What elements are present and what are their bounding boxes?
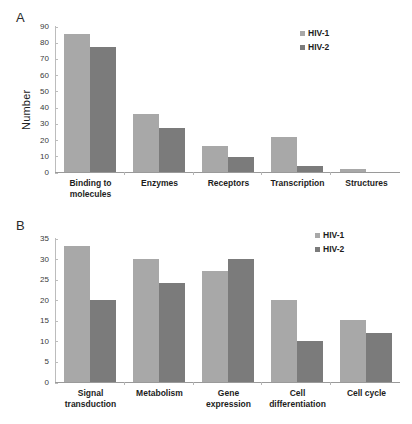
x-axis-line-b xyxy=(55,382,400,383)
y-tick-label: 5 xyxy=(45,358,55,366)
legend-swatch-icon xyxy=(300,31,305,36)
category-label: Metabolism xyxy=(125,388,194,409)
bar-hiv-1 xyxy=(64,246,90,382)
chart-panel-b: B Number 05101520253035 Signal transduct… xyxy=(0,212,412,424)
bar-hiv-1 xyxy=(133,114,159,172)
panel-b-letter: B xyxy=(16,218,25,233)
y-tick-label: 25 xyxy=(40,276,55,284)
y-tick-label: 15 xyxy=(40,317,55,325)
legend-item: HIV-1 xyxy=(315,230,344,240)
y-tick-label: 80 xyxy=(40,39,55,47)
legend-label: HIV-2 xyxy=(323,244,344,254)
x-tick-mark xyxy=(124,172,125,175)
bar-hiv-1 xyxy=(202,146,228,172)
bar-hiv-1 xyxy=(202,271,228,382)
legend-item: HIV-2 xyxy=(315,244,344,254)
x-axis-category-labels-a: Binding to moleculesEnzymesReceptorsTran… xyxy=(56,178,401,199)
x-tick-mark xyxy=(330,172,331,175)
category-label: Gene expression xyxy=(194,388,263,409)
category-label: Transcription xyxy=(263,178,332,199)
legend-swatch-icon xyxy=(300,45,305,50)
y-tick-label: 50 xyxy=(40,88,55,96)
bar-group xyxy=(125,238,194,382)
figure-hiv-interaction-categories: A Number 0102030405060708090 Binding to … xyxy=(0,0,412,424)
chart-panel-a: A Number 0102030405060708090 Binding to … xyxy=(0,0,412,212)
legend-a: HIV-1HIV-2 xyxy=(300,28,329,56)
y-tick-label: 30 xyxy=(40,256,55,264)
plot-area-a: 0102030405060708090 xyxy=(55,26,400,173)
legend-b: HIV-1HIV-2 xyxy=(315,230,344,258)
category-label: Cell differentiation xyxy=(263,388,332,409)
bar-hiv-1 xyxy=(64,34,90,172)
bar-group xyxy=(262,238,331,382)
bar-groups-b xyxy=(56,238,400,382)
x-tick-mark xyxy=(193,172,194,175)
y-tick-label: 10 xyxy=(40,153,55,161)
category-label: Binding to molecules xyxy=(56,178,125,199)
y-tick-label: 60 xyxy=(40,72,55,80)
bar-hiv-2 xyxy=(228,157,254,172)
bar-hiv-2 xyxy=(297,166,323,172)
bar-hiv-1 xyxy=(340,169,366,172)
bar-hiv-1 xyxy=(340,320,366,382)
category-label: Enzymes xyxy=(125,178,194,199)
y-tick-label: 90 xyxy=(40,23,55,31)
category-label: Receptors xyxy=(194,178,263,199)
category-label: Signal transduction xyxy=(56,388,125,409)
panel-a-letter: A xyxy=(16,10,25,25)
x-axis-category-labels-b: Signal transductionMetabolismGene expres… xyxy=(56,388,401,409)
y-tick-mark xyxy=(55,173,58,174)
y-tick-label: 30 xyxy=(40,120,55,128)
legend-label: HIV-2 xyxy=(308,42,329,52)
bar-hiv-2 xyxy=(90,300,116,382)
y-tick-mark xyxy=(55,383,58,384)
bar-hiv-2 xyxy=(159,128,185,172)
y-axis-title-a: Number xyxy=(20,90,32,130)
bar-group xyxy=(194,26,263,172)
bar-hiv-1 xyxy=(271,137,297,172)
bar-group xyxy=(331,238,400,382)
y-tick-label: 20 xyxy=(40,297,55,305)
bar-group xyxy=(194,238,263,382)
y-tick-label: 0 xyxy=(45,169,55,177)
y-tick-label: 40 xyxy=(40,104,55,112)
legend-swatch-icon xyxy=(315,233,320,238)
x-tick-mark xyxy=(124,382,125,385)
plot-area-b: 05101520253035 xyxy=(55,238,400,383)
x-tick-mark xyxy=(261,172,262,175)
legend-label: HIV-1 xyxy=(308,28,329,38)
legend-swatch-icon xyxy=(315,247,320,252)
category-label: Structures xyxy=(332,178,401,199)
x-tick-mark xyxy=(261,382,262,385)
y-tick-label: 70 xyxy=(40,55,55,63)
legend-label: HIV-1 xyxy=(323,230,344,240)
legend-item: HIV-1 xyxy=(300,28,329,38)
bar-group xyxy=(125,26,194,172)
y-tick-label: 0 xyxy=(45,379,55,387)
bar-group xyxy=(331,26,400,172)
bar-hiv-1 xyxy=(271,300,297,382)
category-label: Cell cycle xyxy=(332,388,401,409)
bar-groups-a xyxy=(56,26,400,172)
bar-hiv-2 xyxy=(90,47,116,172)
x-axis-line-a xyxy=(55,172,400,173)
y-tick-label: 10 xyxy=(40,338,55,346)
bar-hiv-2 xyxy=(228,259,254,382)
y-tick-label: 20 xyxy=(40,137,55,145)
bar-group xyxy=(56,238,125,382)
bar-hiv-2 xyxy=(366,333,392,382)
bar-group xyxy=(56,26,125,172)
bar-hiv-1 xyxy=(133,259,159,382)
legend-item: HIV-2 xyxy=(300,42,329,52)
x-tick-mark xyxy=(193,382,194,385)
x-tick-mark xyxy=(330,382,331,385)
bar-hiv-2 xyxy=(159,283,185,382)
y-tick-label: 35 xyxy=(40,235,55,243)
bar-hiv-2 xyxy=(297,341,323,382)
